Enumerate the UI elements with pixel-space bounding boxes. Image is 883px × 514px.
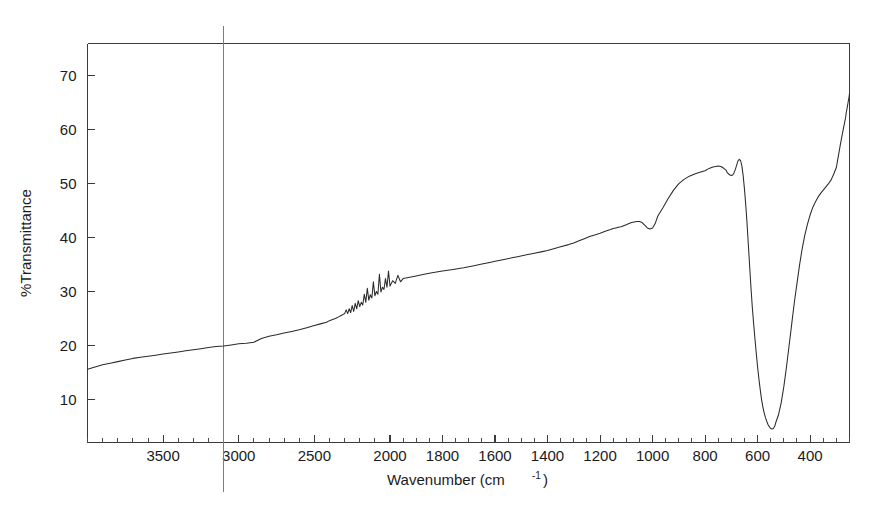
y-tick-label: 60 <box>60 121 77 138</box>
x-tick-label: 600 <box>745 447 770 464</box>
x-tick-label: 1000 <box>636 447 669 464</box>
x-axis-title-closeparen: ) <box>543 471 548 488</box>
spectrum-page: 10203040506070 3500300025002000180016001… <box>0 0 883 514</box>
x-tick-label: 2500 <box>298 447 331 464</box>
x-tick-label: 400 <box>798 447 823 464</box>
x-axis-title: Wavenumber (cm <box>387 471 505 488</box>
y-axis-title: %Transmittance <box>17 189 34 297</box>
y-tick-label: 40 <box>60 229 77 246</box>
ir-spectrum-figure: 10203040506070 3500300025002000180016001… <box>0 0 883 514</box>
y-tick-label: 20 <box>60 337 77 354</box>
y-tick-label: 70 <box>60 67 77 84</box>
x-tick-label: 1200 <box>583 447 616 464</box>
x-tick-label: 2000 <box>373 447 406 464</box>
x-tick-label: 3000 <box>222 447 255 464</box>
x-tick-label: 800 <box>693 447 718 464</box>
x-tick-label: 1800 <box>426 447 459 464</box>
y-axis-title-group: %Transmittance <box>17 189 34 297</box>
y-tick-label: 50 <box>60 175 77 192</box>
x-axis-title-superscript: -1 <box>532 470 541 481</box>
y-tick-label: 30 <box>60 283 77 300</box>
figure-background <box>0 0 883 514</box>
x-tick-label: 1600 <box>478 447 511 464</box>
y-tick-label: 10 <box>60 391 77 408</box>
x-tick-label: 1400 <box>531 447 564 464</box>
x-tick-label: 3500 <box>146 447 179 464</box>
